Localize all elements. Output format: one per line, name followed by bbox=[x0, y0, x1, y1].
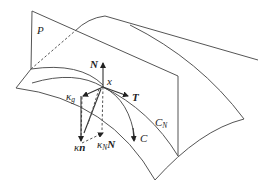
label-point-x: x bbox=[106, 75, 112, 87]
plane-top-edge bbox=[32, 11, 178, 76]
tangent-vector-t bbox=[103, 87, 128, 96]
surface-left-edge bbox=[16, 69, 31, 88]
curve-c bbox=[103, 87, 135, 140]
surface-far-right-edge bbox=[155, 119, 244, 180]
surface-diagram: P N x T κg κn κNN C CN bbox=[0, 0, 258, 193]
label-curve-c: C bbox=[140, 132, 148, 144]
plane-surface-intersection bbox=[31, 67, 103, 85]
label-normal-section-cn: CN bbox=[155, 116, 168, 130]
kn-to-x-dash bbox=[102, 87, 103, 130]
label-kappa-n: κn bbox=[74, 141, 85, 153]
curve-c-upper bbox=[32, 77, 103, 87]
curve-c-arrow bbox=[133, 128, 134, 141]
plane-hidden-edge bbox=[31, 31, 75, 69]
label-tangent-t: T bbox=[132, 91, 140, 103]
normal-plane-p bbox=[31, 11, 178, 156]
surface-top-edge bbox=[75, 16, 258, 60]
label-kappa-N-N: κNN bbox=[97, 138, 116, 152]
plane-left-edge bbox=[31, 11, 32, 69]
label-normal-n: N bbox=[89, 58, 99, 70]
label-kappa-g: κg bbox=[66, 90, 75, 104]
label-plane-p: P bbox=[36, 24, 44, 36]
